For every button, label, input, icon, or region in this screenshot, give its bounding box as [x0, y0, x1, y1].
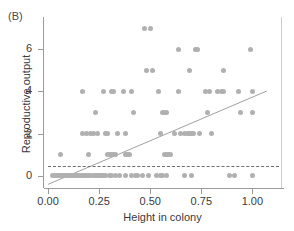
data-point — [195, 47, 200, 52]
data-point — [156, 89, 161, 94]
data-point — [205, 110, 210, 115]
figure-panel-b: (B) Reproductive output Height in colony… — [0, 0, 294, 231]
x-axis-label: Height in colony — [44, 211, 281, 223]
data-point — [93, 110, 98, 115]
x-tick-label: 1.00 — [232, 195, 272, 207]
data-point — [191, 131, 196, 136]
data-point — [250, 110, 255, 115]
x-tick-mark — [150, 189, 151, 194]
y-tick-mark — [38, 176, 43, 177]
data-point — [140, 173, 145, 178]
regression-line — [44, 20, 281, 185]
data-point — [105, 131, 110, 136]
data-point — [189, 173, 194, 178]
data-point — [209, 131, 214, 136]
y-tick-label: 6 — [8, 42, 32, 54]
data-point — [142, 26, 147, 31]
data-point — [197, 131, 202, 136]
data-point — [236, 89, 241, 94]
y-tick-mark — [38, 134, 43, 135]
x-tick-label: 0.00 — [28, 195, 68, 207]
data-point — [101, 89, 106, 94]
y-tick-label: 4 — [8, 84, 32, 96]
x-tick-mark — [48, 189, 49, 194]
data-point — [158, 131, 163, 136]
data-point — [248, 47, 253, 52]
y-tick-mark — [38, 91, 43, 92]
y-tick-label: 0 — [8, 169, 32, 181]
x-tick-label: 0.50 — [130, 195, 170, 207]
data-point — [250, 173, 255, 178]
x-tick-label: 0.75 — [181, 195, 221, 207]
x-tick-label: 0.25 — [79, 195, 119, 207]
threshold-dashed-line — [48, 166, 279, 167]
x-tick-mark — [201, 189, 202, 194]
data-point — [95, 131, 100, 136]
plot-right-border — [281, 17, 282, 188]
data-point — [144, 68, 149, 73]
x-tick-mark — [252, 189, 253, 194]
panel-label: (B) — [8, 10, 23, 22]
data-point — [146, 173, 151, 178]
data-point — [148, 26, 153, 31]
data-point — [207, 89, 212, 94]
plot-area — [44, 20, 281, 185]
x-axis-line — [44, 188, 284, 189]
x-tick-mark — [99, 189, 100, 194]
data-point — [250, 89, 255, 94]
data-point — [187, 68, 192, 73]
data-point — [238, 110, 243, 115]
y-tick-label: 2 — [8, 127, 32, 139]
data-point — [232, 173, 237, 178]
data-point — [113, 152, 118, 157]
data-point — [58, 152, 63, 157]
data-point — [111, 89, 116, 94]
data-point — [150, 68, 155, 73]
y-tick-mark — [38, 49, 43, 50]
